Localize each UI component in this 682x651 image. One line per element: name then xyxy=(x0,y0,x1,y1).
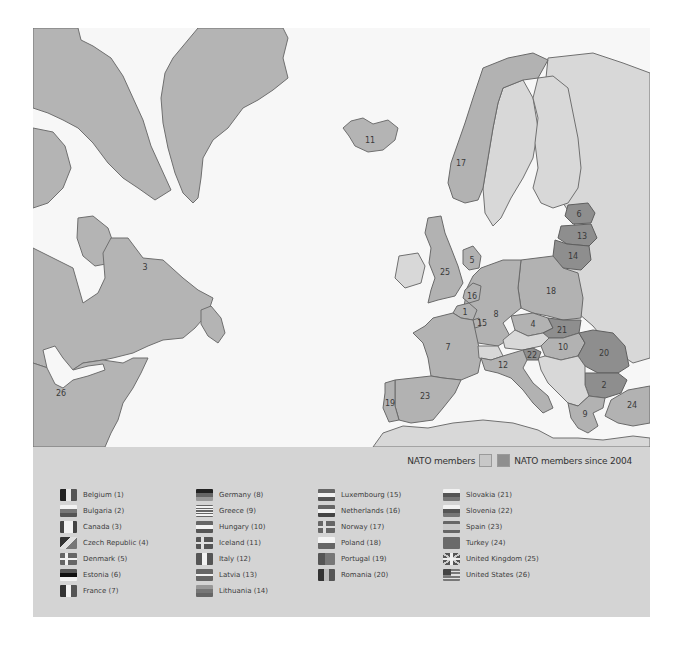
lithuania-flag-icon xyxy=(196,585,213,597)
label-czech: 4 xyxy=(530,320,535,329)
latvia-flag-icon xyxy=(196,569,213,581)
legend-item-united-kingdom: United Kingdom (25) xyxy=(443,551,539,567)
label-estonia: 6 xyxy=(576,210,581,219)
portugal-flag-icon xyxy=(318,553,335,565)
label-germany: 8 xyxy=(493,310,498,319)
label-latvia: 13 xyxy=(577,232,587,241)
label-usa: 26 xyxy=(56,389,66,398)
label-portugal: 19 xyxy=(385,399,395,408)
legend-item-romania: Romania (20) xyxy=(318,567,401,583)
map-canvas: 11 3 26 17 5 6 13 14 18 8 xyxy=(33,28,650,447)
legend-panel: NATO members NATO members since 2004 Bel… xyxy=(33,447,650,617)
slovenia-flag-icon xyxy=(443,505,460,517)
norway-flag-icon xyxy=(318,521,335,533)
spain-flag-icon xyxy=(443,521,460,533)
legend-item-canada: Canada (3) xyxy=(60,519,148,535)
legend-item-germany: Germany (8) xyxy=(196,487,268,503)
nato-since-2004-label: NATO members since 2004 xyxy=(514,456,632,466)
legend-item-hungary: Hungary (10) xyxy=(196,519,268,535)
north-africa xyxy=(373,420,650,447)
estonia-flag-icon xyxy=(60,569,77,581)
legend-column-2: Germany (8) Greece (9) Hungary (10) Icel… xyxy=(196,487,268,599)
label-poland: 18 xyxy=(546,287,556,296)
ireland xyxy=(395,253,425,288)
nato-since-2004-swatch xyxy=(497,454,510,467)
nato-members-swatch xyxy=(479,454,492,467)
label-denmark: 5 xyxy=(469,256,474,265)
legend-item-norway: Norway (17) xyxy=(318,519,401,535)
united-kingdom-flag-icon xyxy=(443,553,460,565)
legend-item-latvia: Latvia (13) xyxy=(196,567,268,583)
legend-item-netherlands: Netherlands (16) xyxy=(318,503,401,519)
legend-item-bulgaria: Bulgaria (2) xyxy=(60,503,148,519)
iceland xyxy=(343,118,398,152)
poland-flag-icon xyxy=(318,537,335,549)
label-luxembourg: 15 xyxy=(477,319,487,328)
united-kingdom xyxy=(425,216,463,303)
turkey-flag-icon xyxy=(443,537,460,549)
label-lithuania: 14 xyxy=(568,252,578,261)
legend-item-slovakia: Slovakia (21) xyxy=(443,487,539,503)
legend-item-spain: Spain (23) xyxy=(443,519,539,535)
label-bulgaria: 2 xyxy=(601,381,606,390)
label-netherlands: 16 xyxy=(467,292,477,301)
nato-members-label: NATO members xyxy=(407,456,475,466)
legend-column-3: Luxembourg (15) Netherlands (16) Norway … xyxy=(318,487,401,583)
legend-column-4: Slovakia (21) Slovenia (22) Spain (23) T… xyxy=(443,487,539,583)
iceland-flag-icon xyxy=(196,537,213,549)
legend-item-lithuania: Lithuania (14) xyxy=(196,583,268,599)
canada-flag-icon xyxy=(60,521,77,533)
legend-item-estonia: Estonia (6) xyxy=(60,567,148,583)
legend-item-slovenia: Slovenia (22) xyxy=(443,503,539,519)
label-canada: 3 xyxy=(142,263,147,272)
baffin-island xyxy=(33,128,71,208)
greece-flag-icon xyxy=(196,505,213,517)
label-spain: 23 xyxy=(420,392,430,401)
legend-item-turkey: Turkey (24) xyxy=(443,535,539,551)
label-greece: 9 xyxy=(582,410,587,419)
legend-item-iceland: Iceland (11) xyxy=(196,535,268,551)
hungary-flag-icon xyxy=(196,521,213,533)
denmark-flag-icon xyxy=(60,553,77,565)
netherlands-flag-icon xyxy=(318,505,335,517)
label-romania: 20 xyxy=(599,349,609,358)
label-norway: 17 xyxy=(456,159,466,168)
luxembourg-flag-icon xyxy=(318,489,335,501)
legend-column-1: Belgium (1) Bulgaria (2) Canada (3) Czec… xyxy=(60,487,148,599)
legend-item-luxembourg: Luxembourg (15) xyxy=(318,487,401,503)
legend-item-belgium: Belgium (1) xyxy=(60,487,148,503)
newfoundland xyxy=(201,306,225,343)
legend-item-poland: Poland (18) xyxy=(318,535,401,551)
czech-republic-flag-icon xyxy=(60,537,77,549)
legend-item-united-states: United States (26) xyxy=(443,567,539,583)
label-hungary: 10 xyxy=(558,343,568,352)
legend-item-czech-republic: Czech Republic (4) xyxy=(60,535,148,551)
france-flag-icon xyxy=(60,585,77,597)
label-italy: 12 xyxy=(498,361,508,370)
romania-flag-icon xyxy=(318,569,335,581)
italy-flag-icon xyxy=(196,553,213,565)
legend-item-france: France (7) xyxy=(60,583,148,599)
greenland xyxy=(161,28,288,203)
color-key: NATO members NATO members since 2004 xyxy=(407,454,632,467)
germany-flag-icon xyxy=(196,489,213,501)
legend-item-portugal: Portugal (19) xyxy=(318,551,401,567)
label-slovakia: 21 xyxy=(557,326,567,335)
label-iceland: 11 xyxy=(365,136,375,145)
legend-item-greece: Greece (9) xyxy=(196,503,268,519)
label-belgium: 1 xyxy=(462,308,467,317)
belgium-flag-icon xyxy=(60,489,77,501)
slovakia-flag-icon xyxy=(443,489,460,501)
label-france: 7 xyxy=(445,343,450,352)
label-uk: 25 xyxy=(440,268,450,277)
legend-item-denmark: Denmark (5) xyxy=(60,551,148,567)
bulgaria-flag-icon xyxy=(60,505,77,517)
label-turkey: 24 xyxy=(627,401,637,410)
label-slovenia: 22 xyxy=(527,351,537,360)
legend-item-italy: Italy (12) xyxy=(196,551,268,567)
nato-map: 11 3 26 17 5 6 13 14 18 8 xyxy=(33,28,650,447)
united-states-flag-icon xyxy=(443,569,460,581)
